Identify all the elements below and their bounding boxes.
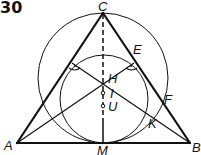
label-f: F [164,92,173,107]
side-ac [17,13,103,143]
point-u [101,104,105,108]
label-u: U [108,99,118,114]
point-i [101,91,105,95]
small-circle [60,55,148,143]
label-m: M [97,143,108,155]
right-angle-dot-left [74,65,76,67]
label-b: B [192,140,201,155]
label-h: H [108,71,118,86]
label-a: A [3,138,13,153]
right-angle-marker-left [69,68,80,70]
label-e: E [133,42,142,57]
figure-number: 30 [0,0,22,17]
label-k: K [148,116,158,131]
right-angle-dot-e [130,65,132,67]
altitude-from-b [72,63,190,143]
label-c: C [98,0,108,14]
geometry-diagram: 30 A B C E F H I U K M [0,0,201,155]
